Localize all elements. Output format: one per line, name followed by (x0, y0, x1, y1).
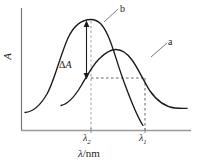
spectrophotometry-figure: A λ/nm λ2 λ1 a b ΔA (0, 0, 199, 168)
tick-lambda2-subscript: 2 (87, 138, 90, 145)
y-axis-label: A (2, 53, 13, 60)
curve-a (61, 50, 187, 109)
x-axis-label-unit: /nm (83, 147, 100, 159)
x-tick-label-lambda1: λ1 (139, 133, 147, 146)
absorbance-symbol-glyph: A (65, 59, 71, 70)
x-axis-label: λ/nm (78, 148, 100, 159)
curve-label-a: a (168, 37, 172, 47)
curve-b (25, 20, 143, 126)
chart-canvas (0, 0, 199, 168)
delta-a-label: ΔA (59, 60, 72, 70)
leader-line-b (104, 9, 118, 22)
delta-a-arrow-head-bottom (84, 73, 90, 80)
tick-lambda1-subscript: 1 (143, 138, 146, 145)
x-tick-label-lambda2: λ2 (83, 133, 91, 146)
leader-line-a (151, 43, 167, 57)
delta-a-arrow-head-top (84, 21, 90, 28)
curve-label-b: b (120, 4, 125, 14)
